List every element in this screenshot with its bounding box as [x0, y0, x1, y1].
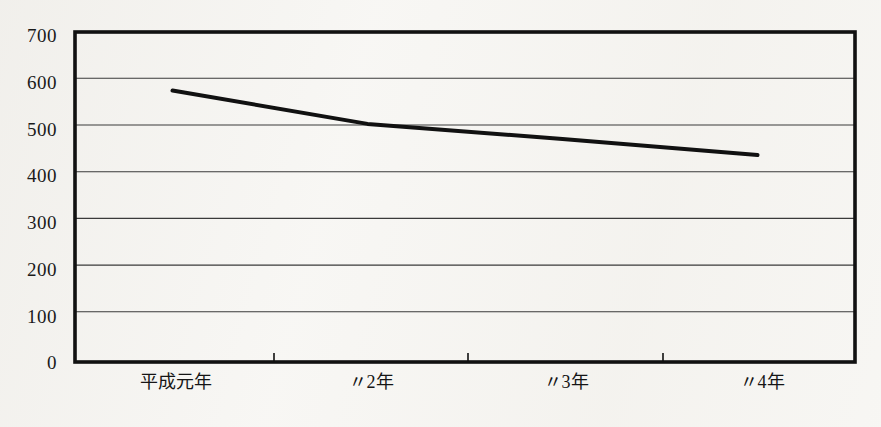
- y-tick-label-200: 200: [0, 260, 57, 279]
- x-tick-label-heisei-3: 〃3年: [506, 373, 626, 391]
- y-tick-label-600: 600: [0, 73, 57, 92]
- plot-svg: [0, 0, 881, 427]
- y-tick-label-700: 700: [0, 26, 57, 45]
- data-line-series-1: [173, 91, 758, 156]
- chart-page: 700 600 500 400 300 200 100 0: [0, 0, 881, 427]
- plot-frame: [75, 32, 855, 362]
- y-tick-label-500: 500: [0, 120, 57, 139]
- line-chart: 700 600 500 400 300 200 100 0: [0, 0, 881, 427]
- x-tick-label-heisei-1: 平成元年: [116, 373, 236, 391]
- y-tick-label-400: 400: [0, 166, 57, 185]
- x-tick-label-heisei-4: 〃4年: [702, 373, 822, 391]
- y-tick-label-0: 0: [0, 353, 57, 372]
- x-tick-label-heisei-2: 〃2年: [311, 373, 431, 391]
- y-tick-label-300: 300: [0, 213, 57, 232]
- gridlines: [75, 78, 855, 311]
- y-tick-label-100: 100: [0, 307, 57, 326]
